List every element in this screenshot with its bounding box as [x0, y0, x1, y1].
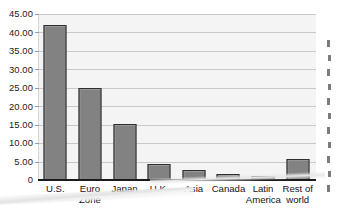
clipped-body-text	[327, 40, 341, 208]
bar-slot	[142, 14, 177, 180]
x-axis-category-label-line: Japan	[111, 183, 137, 194]
bar[interactable]	[113, 124, 136, 180]
y-axis-tick-label: 0	[28, 175, 33, 184]
x-axis-category-label-line: Asia	[184, 183, 203, 194]
bar-slot	[177, 14, 212, 180]
x-axis-category-label: U.S.	[38, 183, 73, 194]
x-axis-labels: U.S.EuroZoneJapanU.K.AsiaCanadaLatinAmer…	[38, 183, 315, 217]
y-axis-tick-label: 35.00	[9, 46, 33, 55]
bar-slot	[107, 14, 142, 180]
y-axis-tick-label: 20.00	[9, 102, 33, 111]
x-axis-category-label: Asia	[177, 183, 212, 194]
y-axis-tick-label: 5.00	[14, 157, 33, 166]
bar-series	[38, 14, 315, 180]
bar-slot	[38, 14, 73, 180]
x-axis-category-label-line: world	[280, 194, 315, 205]
bar-slot	[73, 14, 108, 180]
y-axis-tick-label: 45.00	[9, 9, 33, 18]
x-axis-category-label: LatinAmerica	[246, 183, 281, 206]
bar-slot	[211, 14, 246, 180]
y-axis-tick-label: 25.00	[9, 83, 33, 92]
x-axis-category-label: Japan	[107, 183, 142, 194]
x-axis-category-label-line: Zone	[73, 194, 108, 205]
y-axis-tick-label: 30.00	[9, 65, 33, 74]
x-axis-category-label-line: Canada	[212, 183, 246, 194]
bar[interactable]	[286, 159, 309, 180]
x-axis-category-label: EuroZone	[73, 183, 108, 206]
x-axis-category-label: Rest ofworld	[280, 183, 315, 206]
x-axis-category-label-line: U.S.	[46, 183, 65, 194]
y-axis-tick-label: 40.00	[9, 28, 33, 37]
x-axis-category-label-line: Euro	[80, 183, 100, 194]
x-axis-category-label: U.K.	[142, 183, 177, 194]
chart-screenshot: 45.0040.0035.0030.0025.0020.0015.0010.00…	[0, 0, 341, 217]
bar-slot	[246, 14, 281, 180]
bar-slot	[280, 14, 315, 180]
y-axis-tick-label: 15.00	[9, 120, 33, 129]
y-axis-labels: 45.0040.0035.0030.0025.0020.0015.0010.00…	[0, 0, 36, 186]
x-axis-category-label-line: America	[246, 194, 281, 205]
x-axis-category-label: Canada	[211, 183, 246, 194]
x-axis-line	[38, 179, 316, 181]
y-axis-tick-label: 10.00	[9, 138, 33, 147]
bar[interactable]	[44, 25, 67, 180]
x-axis-category-label-line: Rest of	[282, 183, 312, 194]
bar-chart: 45.0040.0035.0030.0025.0020.0015.0010.00…	[0, 0, 341, 217]
x-axis-category-label-line: U.K.	[150, 183, 169, 194]
bar[interactable]	[148, 164, 171, 180]
bar[interactable]	[78, 88, 101, 180]
x-axis-category-label-line: Latin	[253, 183, 274, 194]
